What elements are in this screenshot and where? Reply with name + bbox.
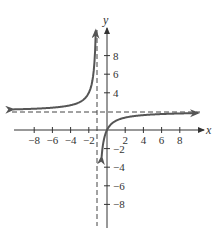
x-tick-label: −2	[83, 134, 95, 146]
axes: x y	[14, 13, 212, 228]
y-tick-label: 4	[113, 87, 119, 99]
x-tick-label: 4	[141, 134, 147, 146]
y-tick-label: −6	[113, 180, 125, 192]
x-tick-label: 8	[177, 134, 183, 146]
left-branch-curve	[13, 31, 96, 110]
x-tick-label: −6	[47, 134, 59, 146]
asymptotes	[12, 30, 200, 226]
function-curve	[13, 31, 198, 157]
y-tick-label: 8	[113, 50, 119, 62]
graph-canvas: x y −8−6−4−22468 864−2−4−6−8	[0, 0, 222, 234]
y-axis-label: y	[102, 13, 109, 27]
x-tick-label: 6	[159, 134, 165, 146]
y-tick-label: −4	[113, 161, 125, 173]
y-tick-label: −2	[113, 143, 125, 155]
x-axis-label: x	[205, 123, 212, 137]
y-tick-label: 6	[113, 68, 119, 80]
x-tick-label: −8	[28, 134, 40, 146]
y-tick-label: −8	[113, 198, 125, 210]
x-tick-label: −4	[65, 134, 77, 146]
